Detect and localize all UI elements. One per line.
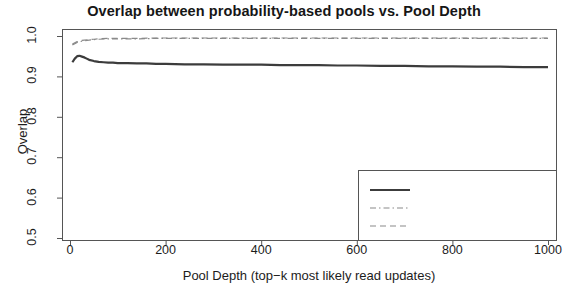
chart-figure: Overlap between probability-based pools … [0, 0, 568, 292]
plot-area [0, 0, 568, 292]
